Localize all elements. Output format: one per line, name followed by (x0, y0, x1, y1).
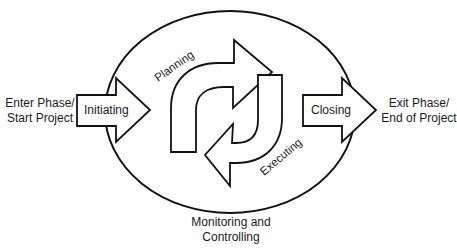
monitoring-label-line2: Controlling (176, 230, 286, 245)
entry-label-line1: Enter Phase/ (2, 96, 78, 111)
entry-label: Enter Phase/ Start Project (2, 96, 78, 126)
exit-label: Exit Phase/ End of Project (381, 96, 457, 126)
entry-label-line2: Start Project (2, 111, 78, 126)
exit-label-line1: Exit Phase/ (381, 96, 457, 111)
monitoring-label: Monitoring and Controlling (176, 215, 286, 245)
initiating-label: Initiating (84, 103, 129, 118)
closing-label: Closing (311, 103, 351, 118)
monitoring-label-line1: Monitoring and (176, 215, 286, 230)
exit-label-line2: End of Project (381, 111, 457, 126)
